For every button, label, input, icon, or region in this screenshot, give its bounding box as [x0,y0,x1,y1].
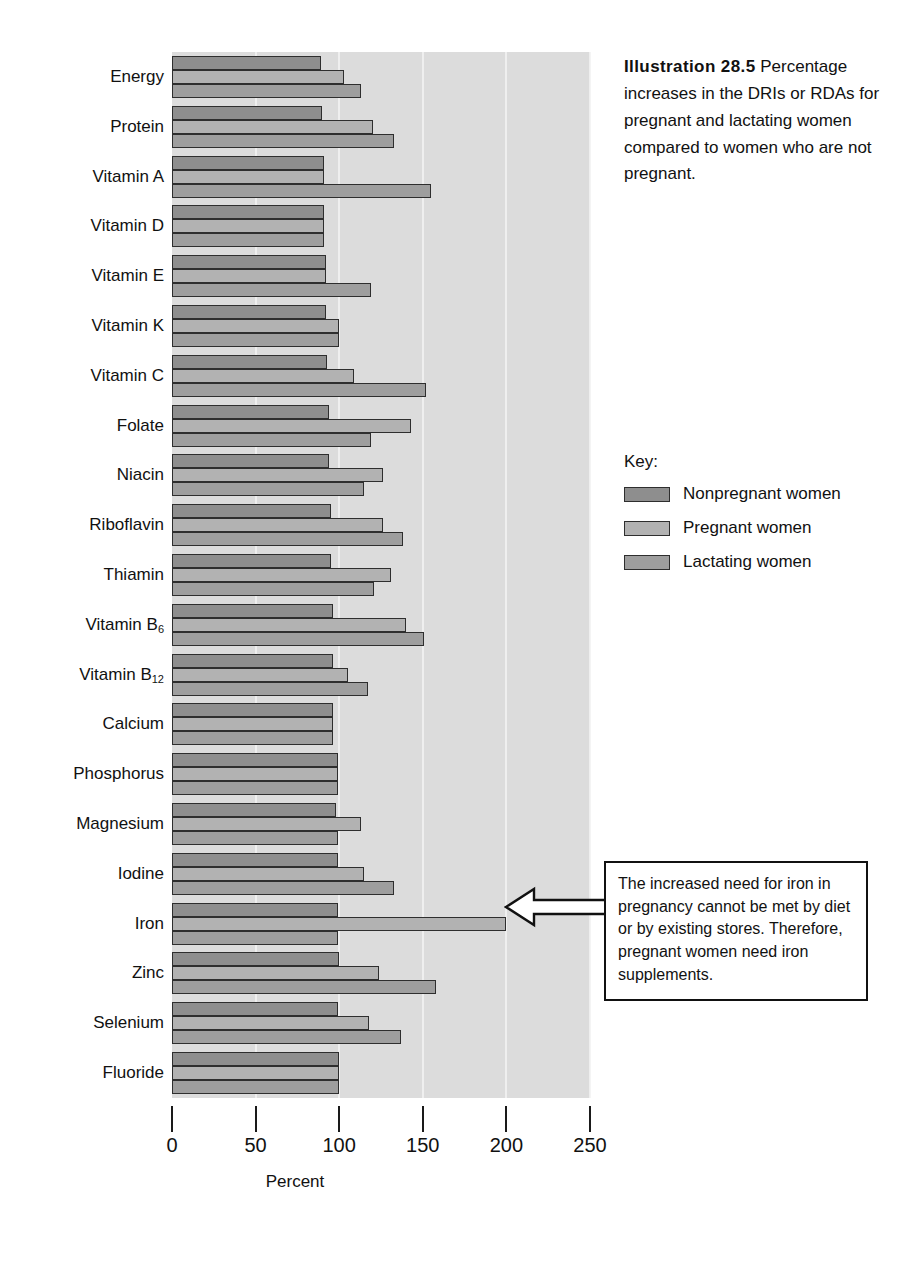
bar [172,305,326,319]
legend-title: Key: [624,452,904,472]
bar [172,931,338,945]
bar [172,554,331,568]
bar [172,233,324,247]
bar [172,454,329,468]
bar-group [172,554,590,596]
category-label: Iron [135,915,164,932]
bar [172,120,373,134]
bar [172,1080,339,1094]
legend-items: Nonpregnant womenPregnant womenLactating… [624,484,904,572]
bar [172,56,321,70]
bar [172,255,326,269]
callout-arrow-icon [504,884,614,930]
bar [172,568,391,582]
bar [172,767,338,781]
bar [172,917,506,931]
category-label: Vitamin K [92,317,164,334]
bar [172,468,383,482]
category-label: Vitamin B12 [79,666,164,685]
bar [172,952,339,966]
x-tick [422,1106,424,1132]
bar [172,433,371,447]
bar-group [172,454,590,496]
bar [172,269,326,283]
bar-group [172,504,590,546]
bar [172,369,354,383]
bar [172,632,424,646]
legend-item: Lactating women [624,552,904,572]
category-label: Phosphorus [73,765,164,782]
bar [172,355,327,369]
bar [172,582,374,596]
bar-group [172,255,590,297]
category-label: Riboflavin [89,516,164,533]
bar [172,1030,401,1044]
callout-text: The increased need for iron in pregnancy… [618,875,850,983]
x-tick [171,1106,173,1132]
bar-group [172,753,590,795]
legend-swatch [624,521,670,536]
category-label: Protein [110,118,164,135]
bar-groups [172,52,590,1098]
bar [172,333,339,347]
bar [172,881,394,895]
category-label: Vitamin D [91,217,164,234]
bar [172,205,324,219]
bar [172,283,371,297]
bar [172,803,336,817]
bar [172,1052,339,1066]
bar [172,966,379,980]
category-label: Vitamin B6 [85,616,164,635]
bar [172,184,431,198]
bar-group [172,1002,590,1044]
bar-group [172,205,590,247]
bar [172,604,333,618]
x-axis: 050100150200250 [0,1098,911,1158]
category-label: Vitamin E [92,267,164,284]
category-label: Magnesium [76,815,164,832]
category-label: Niacin [117,466,164,483]
x-tick [255,1106,257,1132]
category-label: Energy [110,68,164,85]
bar [172,319,339,333]
legend-item: Nonpregnant women [624,484,904,504]
bar-group [172,405,590,447]
bar [172,753,338,767]
bar [172,731,333,745]
bar-group [172,803,590,845]
category-label: Zinc [132,964,164,981]
bar [172,482,364,496]
bar [172,219,324,233]
category-label: Selenium [93,1014,164,1031]
bar [172,1002,338,1016]
bar [172,518,383,532]
bar-group [172,952,590,994]
bar [172,383,426,397]
bar [172,618,406,632]
bar [172,903,338,917]
bar [172,654,333,668]
bar [172,703,333,717]
chart-legend: Key: Nonpregnant womenPregnant womenLact… [624,452,904,586]
bar [172,1066,339,1080]
bar [172,70,344,84]
bar-group [172,1052,590,1094]
x-tick-label: 50 [244,1134,266,1157]
legend-swatch [624,555,670,570]
legend-item: Pregnant women [624,518,904,538]
x-tick-label: 250 [573,1134,606,1157]
x-tick [505,1106,507,1132]
bar [172,170,324,184]
chart-plot-area [172,52,590,1098]
bar [172,1016,369,1030]
bar [172,106,322,120]
category-label: Fluoride [103,1064,164,1081]
legend-label: Nonpregnant women [683,484,841,504]
bar [172,682,368,696]
x-tick-label: 100 [323,1134,356,1157]
bar [172,668,348,682]
bar [172,532,403,546]
category-label: Folate [117,417,164,434]
caption-title: Illustration 28.5 [624,57,756,76]
category-label: Vitamin A [92,168,164,185]
